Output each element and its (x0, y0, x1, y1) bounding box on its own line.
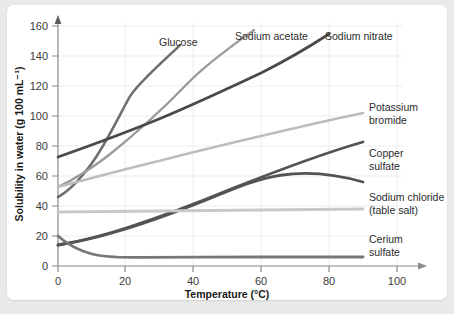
label-copper-sulfate-line2: sulfate (369, 160, 400, 172)
curve-sodium-acetate (58, 30, 254, 187)
y-axis-arrow (55, 15, 62, 24)
curve-cerium-sulfate (58, 236, 363, 257)
label-sodium-acetate: Sodium acetate (235, 30, 308, 42)
x-axis-title: Temperature (°C) (185, 288, 270, 300)
ytick-label-140: 140 (30, 50, 48, 62)
ytick-label-100: 100 (30, 110, 48, 122)
xtick-label-60: 60 (255, 275, 267, 287)
label-sodium-nitrate: Sodium nitrate (325, 30, 393, 42)
label-glucose: Glucose (159, 36, 198, 48)
xtick-label-80: 80 (323, 275, 335, 287)
y-axis-title: Solubility in water (g 100 mL⁻¹) (13, 67, 25, 222)
xtick-label-0: 0 (55, 275, 61, 287)
label-cerium-sulfate-line1: Cerium (369, 233, 403, 245)
curve-copper-sulfate-main (58, 142, 363, 245)
label-sodium-chloride-line1: Sodium chloride (369, 191, 444, 203)
x-axis-arrow (418, 263, 427, 270)
series-curves (58, 30, 363, 257)
label-sodium-chloride-line2: (table salt) (369, 204, 418, 216)
ytick-label-20: 20 (36, 230, 48, 242)
label-cerium-sulfate-line2: sulfate (369, 246, 400, 258)
xtick-label-40: 40 (187, 275, 199, 287)
y-tick-labels: 0 20 40 60 80 100 120 140 160 (30, 20, 48, 272)
xtick-label-100: 100 (388, 275, 406, 287)
label-potassium-bromide-line2: bromide (369, 114, 407, 126)
ytick-label-0: 0 (42, 260, 48, 272)
series-labels: Glucose Sodium acetate Sodium nitrate Po… (159, 30, 444, 258)
curve-glucose (58, 45, 180, 197)
label-potassium-bromide-line1: Potassium (369, 101, 418, 113)
ytick-label-120: 120 (30, 80, 48, 92)
ytick-label-60: 60 (36, 170, 48, 182)
ytick-label-160: 160 (30, 20, 48, 32)
solubility-chart: 0 20 40 60 80 100 120 140 160 0 20 40 60… (7, 5, 447, 300)
chart-card: 0 20 40 60 80 100 120 140 160 0 20 40 60… (7, 5, 447, 300)
xtick-label-20: 20 (119, 275, 131, 287)
label-copper-sulfate-line1: Copper (369, 147, 404, 159)
curve-sodium-chloride (58, 209, 363, 212)
ytick-label-80: 80 (36, 140, 48, 152)
ytick-label-40: 40 (36, 200, 48, 212)
x-tick-labels: 0 20 40 60 80 100 (55, 275, 406, 287)
